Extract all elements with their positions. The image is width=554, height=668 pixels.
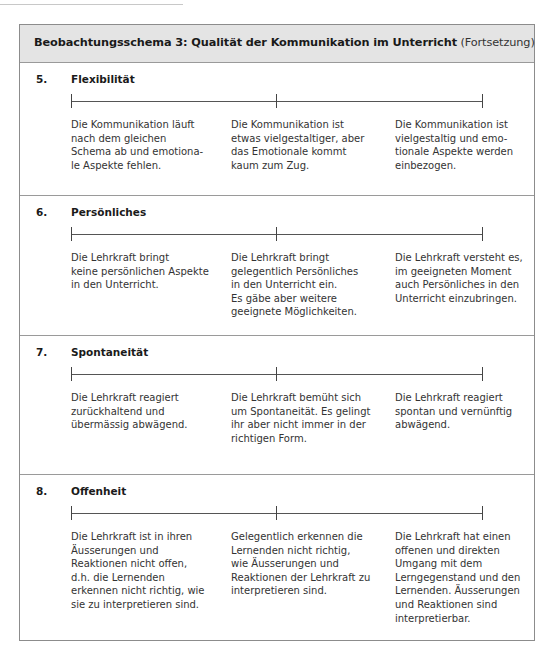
description-low: Die Lehrkraft ist in ihren Äusserungen u… bbox=[71, 530, 221, 612]
scale-tick-low bbox=[71, 94, 72, 108]
section-flexibilitaet: 5. Flexibilität Die Kommunikation läuft … bbox=[20, 63, 534, 196]
section-number: 5. bbox=[36, 73, 47, 85]
rating-scale bbox=[71, 367, 483, 381]
schema-title-suffix: (Fortsetzung) bbox=[457, 36, 535, 49]
scale-tick-high bbox=[482, 227, 483, 241]
scale-line bbox=[71, 101, 483, 102]
section-spontaneitaet: 7. Spontaneität Die Lehrkraft reagiert z… bbox=[20, 336, 534, 475]
section-number: 8. bbox=[36, 485, 47, 497]
description-low: Die Kommunikation läuft nach dem gleiche… bbox=[71, 118, 221, 172]
scale-line bbox=[71, 374, 483, 375]
scale-tick-high bbox=[482, 367, 483, 381]
scale-tick-low bbox=[71, 227, 72, 241]
schema-title: Beobachtungsschema 3: Qualität der Kommu… bbox=[34, 36, 535, 49]
scale-tick-high bbox=[482, 506, 483, 520]
scale-line bbox=[71, 513, 483, 514]
scale-tick-mid bbox=[276, 227, 277, 241]
description-mid: Die Lehrkraft bemüht sich um Spontaneitä… bbox=[231, 391, 381, 445]
section-persoenliches: 6. Persönliches Die Lehrkraft bringt kei… bbox=[20, 196, 534, 336]
description-high: Die Lehrkraft hat einen offenen und dire… bbox=[395, 530, 535, 625]
scale-tick-low bbox=[71, 367, 72, 381]
description-high: Die Lehrkraft versteht es, im geeigneten… bbox=[395, 251, 535, 305]
section-number: 6. bbox=[36, 206, 47, 218]
section-title: Offenheit bbox=[71, 485, 126, 497]
section-title: Persönliches bbox=[71, 206, 146, 218]
section-title: Flexibilität bbox=[71, 73, 135, 85]
scale-tick-mid bbox=[276, 367, 277, 381]
section-title: Spontaneität bbox=[71, 346, 148, 358]
scale-tick-mid bbox=[276, 506, 277, 520]
schema-title-main: Beobachtungsschema 3: Qualität der Kommu… bbox=[34, 36, 457, 49]
scale-tick-high bbox=[482, 94, 483, 108]
section-offenheit: 8. Offenheit Die Lehrkraft ist in ihren … bbox=[20, 475, 534, 640]
schema-header: Beobachtungsschema 3: Qualität der Kommu… bbox=[20, 25, 534, 63]
observation-schema-table: Beobachtungsschema 3: Qualität der Kommu… bbox=[19, 24, 535, 641]
description-high: Die Kommunikation ist vielgestaltig und … bbox=[395, 118, 535, 172]
scale-tick-mid bbox=[276, 94, 277, 108]
description-mid: Die Lehrkraft bringt gelegentlich Persön… bbox=[231, 251, 381, 319]
section-number: 7. bbox=[36, 346, 47, 358]
rating-scale bbox=[71, 227, 483, 241]
scale-line bbox=[71, 234, 483, 235]
description-mid: Gelegentlich erkennen die Lernenden nich… bbox=[231, 530, 381, 598]
scale-tick-low bbox=[71, 506, 72, 520]
page-top-rule bbox=[0, 4, 183, 5]
rating-scale bbox=[71, 94, 483, 108]
description-high: Die Lehrkraft reagiert spontan und vernü… bbox=[395, 391, 535, 432]
description-low: Die Lehrkraft bringt keine persönlichen … bbox=[71, 251, 221, 292]
description-mid: Die Kommunikation ist etwas vielgestalti… bbox=[231, 118, 381, 172]
rating-scale bbox=[71, 506, 483, 520]
description-low: Die Lehrkraft reagiert zurückhaltend und… bbox=[71, 391, 221, 432]
